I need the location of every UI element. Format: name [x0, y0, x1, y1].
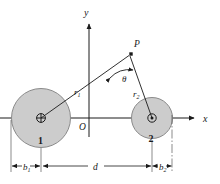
origin-label: O	[79, 122, 86, 132]
conductor-1-label: 1	[38, 135, 43, 146]
r1-label: r1	[74, 87, 81, 98]
physics-diagram-figure: y x O P θ r1 r2 1 2 b1 d b2	[0, 0, 220, 184]
y-axis-label: y	[83, 7, 89, 18]
field-point-label: P	[133, 39, 140, 49]
diagram-canvas: y x O P θ r1 r2 1 2 b1 d b2	[0, 0, 220, 184]
angle-theta-label: θ	[122, 74, 127, 84]
r1-label-subscript: 1	[78, 92, 81, 98]
conductor-2-label: 2	[149, 133, 154, 144]
r2-label: r2	[133, 89, 140, 100]
x-axis-label: x	[202, 113, 208, 124]
dim-b2-label-subscript: 2	[164, 167, 167, 173]
dim-b1-label-subscript: 1	[28, 167, 31, 173]
dim-b2-label: b2	[159, 162, 167, 173]
field-point-P	[129, 52, 132, 55]
dim-b1-label: b1	[23, 162, 31, 173]
dim-d-label: d	[93, 162, 98, 172]
r1-vector-line	[41, 56, 129, 119]
r2-label-subscript: 2	[137, 94, 140, 100]
